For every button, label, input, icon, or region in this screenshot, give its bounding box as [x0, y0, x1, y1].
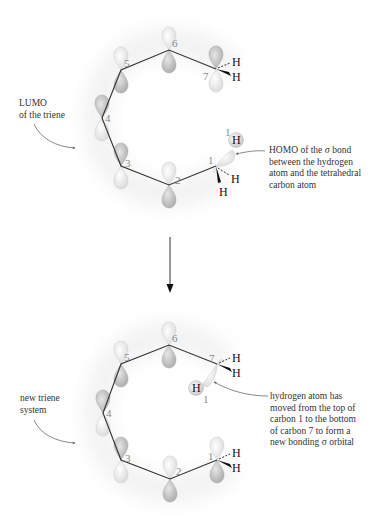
lumo-pointer-arrow: [34, 124, 75, 148]
bottom-c1-h-wedge: H: [232, 461, 241, 475]
bottom-carbon-6-label: 6: [172, 332, 178, 344]
top-carbon-2-label: 2: [175, 174, 181, 186]
top-c7-h-wedge: H: [232, 70, 241, 84]
homo-pointer-arrow: [236, 151, 265, 154]
bottom-carbon-5-label: 5: [124, 351, 130, 363]
bottom-c7-h-wedge: H: [232, 366, 241, 380]
bottom-carbon-3-label: 3: [125, 452, 131, 464]
top-carbon-3-label: 3: [125, 157, 131, 169]
bottom-panel: 6 5 7 4 3 2 1 1 H H H H H: [34, 322, 268, 503]
bottom-carbon-2-label: 2: [176, 465, 182, 477]
top-migrating-h: H: [232, 133, 241, 147]
bottom-triene-skeleton: [103, 345, 217, 479]
lumo-caption: LUMO of the triene: [19, 98, 65, 121]
top-carbon-6-label: 6: [172, 37, 178, 49]
migration-pointer-arrow: [214, 382, 268, 396]
bottom-carbon-7-label: 7: [209, 352, 215, 364]
top-panel: 6 5 7 4 3 2 1 1 H H H H H: [34, 27, 265, 208]
new-triene-caption: new triene system: [20, 393, 60, 416]
top-carbon-5-label: 5: [124, 57, 130, 69]
migration-caption: hydrogen atom has moved from the top of …: [270, 391, 356, 449]
top-migrating-h-number: 1: [225, 126, 231, 138]
bottom-migrating-h: H: [192, 381, 201, 395]
top-carbon-4-label: 4: [105, 112, 111, 124]
top-c7-h-dashed: H: [232, 55, 241, 69]
top-c1-h-dashed: H: [231, 172, 240, 186]
bottom-c7-h-dashed: H: [232, 351, 241, 365]
bottom-migrating-h-number: 1: [203, 393, 209, 405]
bottom-carbon-1-label: 1: [208, 450, 214, 462]
homo-caption: HOMO of the σ bond between the hydrogen …: [269, 145, 361, 191]
top-carbon-1-label: 1: [208, 154, 214, 166]
reaction-arrow: [167, 237, 174, 293]
top-c1-h-wedge: H: [219, 185, 228, 199]
bottom-carbon-4-label: 4: [106, 407, 112, 419]
triene-pointer-arrow: [34, 420, 75, 443]
bottom-c1-h-dashed: H: [232, 446, 241, 460]
top-carbon-7-label: 7: [203, 70, 209, 82]
